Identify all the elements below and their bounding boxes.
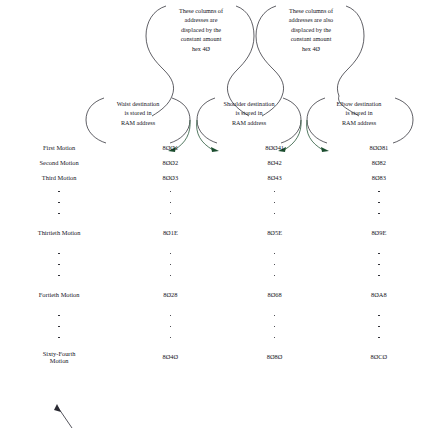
ellipsis-dot: [0, 331, 118, 342]
spacer-row: [0, 342, 431, 349]
row-label-line: Sixty-Fourth: [0, 350, 118, 357]
address-cell: 8Ø1E: [118, 225, 222, 240]
spacer-cell: [0, 280, 118, 287]
address-map-diagram: These columns of addresses are displaced…: [0, 0, 431, 432]
dot-glyph: [58, 191, 60, 193]
row-label-line: Fortieth Motion: [0, 291, 118, 298]
dot-glyph: [170, 326, 172, 328]
address-cell: 8ØCØ: [327, 349, 431, 364]
address-cell: 8ØA8: [327, 287, 431, 302]
address-cell: 8ØØ1: [118, 140, 222, 155]
spacer-cell: [223, 240, 327, 247]
ellipsis-dot: [223, 196, 327, 207]
table-row: Third Motion8ØØ38Ø438Ø83: [0, 170, 431, 185]
address-cell: 8ØØ41: [223, 140, 327, 155]
ellipsis-dot: [0, 320, 118, 331]
spacer-cell: [118, 280, 222, 287]
ellipsis-dot: [327, 309, 431, 320]
dot-glyph: [58, 213, 60, 215]
ellipsis-dot: [327, 196, 431, 207]
ellipsis-dot: [223, 320, 327, 331]
ellipsis-row: [0, 269, 431, 280]
dot-glyph: [274, 213, 276, 215]
callout-line: constant amount: [156, 34, 246, 43]
address-cell: 8ØØ3: [118, 170, 222, 185]
address-cell: 8Ø9E: [327, 225, 431, 240]
callout-line: Shoulder destination: [206, 99, 292, 108]
dot-glyph: [274, 191, 276, 193]
callout-line: is stored in: [98, 108, 178, 117]
dot-glyph: [378, 337, 380, 339]
ellipsis-dot: [0, 247, 118, 258]
dot-glyph: [58, 253, 60, 255]
dot-glyph: [274, 315, 276, 317]
dot-glyph: [170, 315, 172, 317]
bottom-pointer-arrow: [54, 404, 72, 428]
ellipsis-row: [0, 185, 431, 196]
dot-glyph: [58, 275, 60, 277]
dot-glyph: [274, 337, 276, 339]
address-table-wrap: First Motion8ØØ18ØØ418ØØ81Second Motion8…: [0, 140, 431, 364]
ellipsis-dot: [223, 207, 327, 218]
table-row: Thirtieth Motion8Ø1E8Ø5E8Ø9E: [0, 225, 431, 240]
address-cell: 8Ø5E: [223, 225, 327, 240]
callout-line: displaced by the: [156, 25, 246, 34]
row-label: Sixty-FourthMotion: [0, 349, 118, 364]
dot-glyph: [170, 191, 172, 193]
spacer-row: [0, 302, 431, 309]
callout-line: Elbow destination: [318, 99, 400, 108]
spacer-row: [0, 280, 431, 287]
ellipsis-row: [0, 309, 431, 320]
ellipsis-dot: [0, 269, 118, 280]
dot-glyph: [378, 191, 380, 193]
ellipsis-dot: [118, 207, 222, 218]
dot-glyph: [274, 202, 276, 204]
dot-glyph: [378, 213, 380, 215]
address-cell: 8Ø8Ø: [223, 349, 327, 364]
spacer-cell: [118, 240, 222, 247]
dot-glyph: [170, 202, 172, 204]
ellipsis-dot: [223, 331, 327, 342]
ellipsis-dot: [118, 258, 222, 269]
dot-glyph: [274, 253, 276, 255]
dot-glyph: [378, 253, 380, 255]
row-label-line: Thirtieth Motion: [0, 229, 118, 236]
ellipsis-dot: [327, 258, 431, 269]
table-row: Second Motion8ØØ28Ø428Ø82: [0, 155, 431, 170]
ellipsis-dot: [118, 196, 222, 207]
ellipsis-dot: [0, 185, 118, 196]
address-cell: 8Ø28: [118, 287, 222, 302]
callout-shoulder-offset-note: These columns of addresses are also disp…: [265, 6, 357, 53]
callout-line: addresses are also: [265, 15, 357, 24]
ellipsis-row: [0, 207, 431, 218]
callout-line: hex 4Ø: [156, 44, 246, 53]
address-table: First Motion8ØØ18ØØ418ØØ81Second Motion8…: [0, 140, 431, 364]
spacer-cell: [118, 218, 222, 225]
ellipsis-dot: [327, 320, 431, 331]
row-label-line: Second Motion: [0, 159, 118, 166]
row-label: Thirtieth Motion: [0, 225, 118, 240]
ellipsis-dot: [0, 207, 118, 218]
callout-line: Waist destination: [98, 99, 178, 108]
callout-shoulder-destination: Shoulder destination is stored in RAM ad…: [206, 99, 292, 127]
ellipsis-dot: [223, 309, 327, 320]
ellipsis-row: [0, 196, 431, 207]
row-label-line: Third Motion: [0, 174, 118, 181]
dot-glyph: [378, 202, 380, 204]
callout-elbow-destination: Elbow destination is stored in RAM addre…: [318, 99, 400, 127]
ellipsis-dot: [327, 207, 431, 218]
spacer-cell: [223, 302, 327, 309]
callout-line: These columns of: [156, 6, 246, 15]
callout-line: addresses are: [156, 15, 246, 24]
row-label: Third Motion: [0, 170, 118, 185]
dot-glyph: [170, 264, 172, 266]
ellipsis-dot: [118, 247, 222, 258]
dot-glyph: [170, 275, 172, 277]
dot-glyph: [58, 315, 60, 317]
callout-line: is stored in: [318, 108, 400, 117]
ellipsis-row: [0, 258, 431, 269]
table-row: First Motion8ØØ18ØØ418ØØ81: [0, 140, 431, 155]
address-cell: 8Ø42: [223, 155, 327, 170]
table-row: Sixty-FourthMotion8Ø4Ø8Ø8Ø8ØCØ: [0, 349, 431, 364]
spacer-cell: [0, 342, 118, 349]
